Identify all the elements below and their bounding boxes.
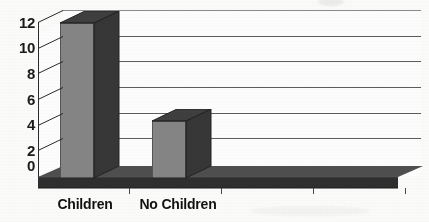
x-tick-3: [313, 188, 314, 194]
y-tick-label-12: 12: [19, 14, 35, 31]
bar-no-children-shape: [152, 109, 212, 191]
bar-no-children[interactable]: [152, 109, 212, 191]
y-tick-label-6: 6: [27, 91, 35, 108]
y-tick-label-4: 4: [27, 116, 35, 133]
scan-artifact-bottom: [250, 206, 370, 216]
y-tick-12: 12: [38, 10, 64, 23]
bar-children-shape: [60, 11, 120, 191]
bar-chart-figure: 12 10 8 6 4 2 0: [0, 0, 429, 222]
y-tick-8: 8: [38, 61, 64, 74]
y-tick-4: 4: [38, 113, 64, 126]
y-tick-6: 6: [38, 87, 64, 100]
y-tick-label-8: 8: [27, 65, 35, 82]
y-tick-2: 2: [38, 138, 64, 151]
y-axis-line: [38, 22, 39, 177]
x-axis-label-no-children: No Children: [139, 196, 216, 212]
y-tick-label-0: 0: [27, 157, 35, 174]
y-tick-label-10: 10: [19, 39, 35, 56]
y-tick-0: 0: [38, 164, 64, 177]
bar-children[interactable]: [60, 11, 120, 191]
x-axis-label-children: Children: [57, 196, 112, 212]
scan-artifact-top: [318, 0, 344, 6]
x-tick-2: [221, 188, 222, 194]
x-tick-1: [129, 188, 130, 194]
y-tick-10: 10: [38, 36, 64, 49]
x-tick-4: [405, 188, 406, 194]
